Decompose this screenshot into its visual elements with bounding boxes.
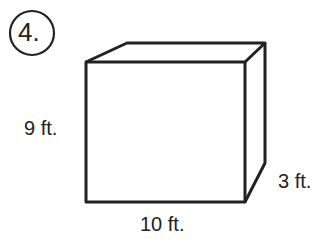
side-face bbox=[245, 43, 265, 202]
top-face bbox=[86, 43, 265, 62]
depth-label: 3 ft. bbox=[278, 171, 311, 191]
width-label: 10 ft. bbox=[140, 214, 184, 234]
problem-number: 4. bbox=[18, 19, 40, 45]
front-face bbox=[86, 62, 245, 202]
height-label: 9 ft. bbox=[24, 118, 57, 138]
rectangular-prism bbox=[86, 43, 265, 202]
